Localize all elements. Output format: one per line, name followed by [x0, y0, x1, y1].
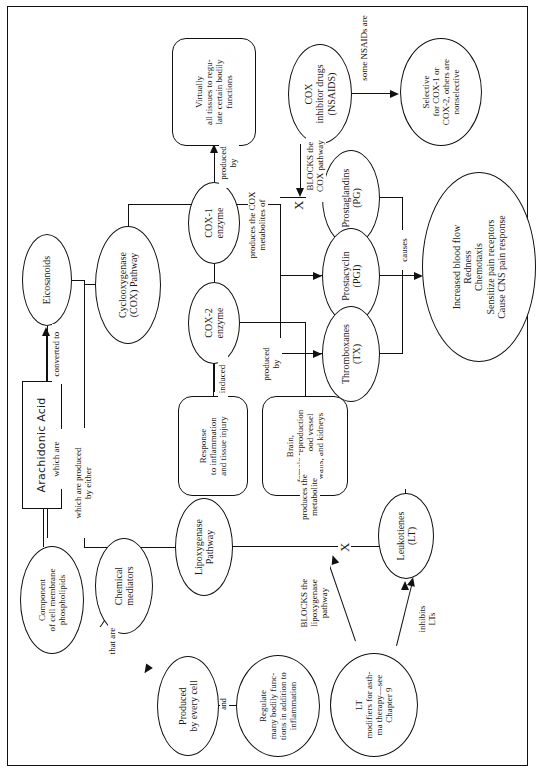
arrowhead-blocks-cox	[296, 188, 304, 197]
edge-label-causes: causes	[400, 230, 410, 270]
edge-component-to-arachidonic	[43, 507, 44, 547]
node-cox1-enzyme[interactable]: COX-1enzyme	[188, 182, 240, 264]
node-thromboxanes[interactable]: Thromboxanes(TX)	[322, 306, 380, 402]
node-label: Prostacyclin(PGI)	[340, 248, 362, 303]
edge-cox2-to-brain-horizontal	[305, 322, 306, 396]
edge-prostaglandins-down	[380, 197, 402, 198]
edge-label-inhibits-lts: inhibitsLTs	[418, 588, 438, 650]
edge-cox2-to-brain-vertical	[240, 322, 305, 323]
edge-metabolites-bar	[280, 204, 281, 354]
node-label: Prostaglandins(PG)	[340, 166, 362, 231]
edge-label-and: and	[220, 686, 229, 722]
node-label: LTmodifiers for asth-ma therapy—seeChapt…	[354, 669, 394, 742]
block-marker-lipoxygenase: X	[338, 543, 351, 552]
node-virtually-all-tissues[interactable]: Virtuallyall tissues to regu-late certai…	[172, 38, 256, 146]
node-label: Leukotienes(LT)	[395, 509, 417, 564]
node-leukotrienes[interactable]: Leukotienes(LT)	[378, 493, 434, 579]
node-selective-nsaids[interactable]: Selectivefor COX-1 orCOX-2, others areno…	[400, 38, 482, 146]
node-label: Increased blood flowRednessChemotaxisSen…	[451, 212, 507, 322]
node-regulate-bodily-functions[interactable]: Regulatemany bodily func-tions in additi…	[236, 655, 320, 757]
node-label: Virtuallyall tissues to regu-late certai…	[194, 56, 234, 128]
node-label: Arachidonic Acid	[36, 395, 48, 496]
node-label: Componentof cell membranephospholipids	[37, 566, 67, 635]
figure-page: Componentof cell membranephospholipids A…	[0, 0, 536, 774]
node-lipoxygenase-pathway[interactable]: LipoxygenasePathway	[175, 498, 233, 596]
node-label: Eicosanoids	[41, 253, 52, 307]
edge-label-blocks-lipoxygenase: BLOCKS thelipoxygenasepathway	[300, 560, 330, 646]
concept-map-canvas: Componentof cell membranephospholipids A…	[0, 0, 536, 774]
block-marker-cox: X	[292, 201, 305, 210]
edge-prostacyclin-down	[380, 275, 402, 276]
arrowhead-blocks-lipoxygenase	[329, 554, 339, 565]
node-label: Thromboxanes(TX)	[340, 321, 362, 387]
node-lt-modifiers[interactable]: LTmodifiers for asth-ma therapy—seeChapt…	[330, 653, 418, 757]
node-label: Regulatemany bodily func-tions in additi…	[258, 669, 298, 743]
node-label: Selectivefor COX-1 orCOX-2, others areno…	[421, 56, 461, 128]
node-response-inflammation[interactable]: Responseto inflammationand tissue injury	[178, 396, 248, 496]
edge-label-some-nsaids-are: some NSAIDs are	[360, 8, 370, 88]
node-label: Chemicalmediators	[113, 563, 135, 608]
node-cox2-enzyme[interactable]: COX-2enzyme	[188, 282, 240, 364]
node-label: Cyclooxygenase(COX) Pathway	[117, 249, 139, 321]
edge-ltmod-blocks-lipoxygenase	[328, 563, 356, 641]
edge-ltmod-inhibits-lts	[396, 582, 413, 646]
node-label: Producedby every cell	[177, 677, 199, 735]
node-chemical-mediators[interactable]: Chemicalmediators	[95, 538, 153, 634]
edge-label-blocks-cox: BLOCKS theCOX pathway	[306, 130, 326, 202]
edge-nsaids-to-selective	[352, 93, 392, 94]
node-label: LipoxygenasePathway	[193, 516, 215, 578]
edge-label-produces-cox-metabolites: produces the COXmetabolites of	[248, 166, 268, 284]
edge-label-induced: induced	[218, 356, 228, 402]
node-component-phospholipids[interactable]: Componentof cell membranephospholipids	[20, 546, 84, 654]
edge-cox-stem	[128, 204, 129, 226]
node-label: COX-1enzyme	[203, 204, 225, 241]
arrowhead-to-selective	[390, 90, 399, 98]
node-cox-inhibitor-drugs[interactable]: COXinhibitor drugs(NSAIDS)	[288, 44, 352, 144]
edge-nsaids-blocks-cox	[300, 144, 301, 190]
edge-label-converted-to: converted to	[52, 324, 62, 384]
node-label: COXinhibitor drugs(NSAIDS)	[303, 61, 337, 126]
node-label: Responseto inflammationand tissue injury	[198, 413, 228, 479]
spacer13	[214, 362, 215, 392]
arrowhead-to-produced	[141, 664, 153, 676]
edge-label-that-are: that are	[108, 616, 118, 666]
arrowhead-to-thromboxanes	[313, 350, 322, 358]
edge-label-produced-by-either: which are producedby either	[74, 428, 94, 538]
node-produced-by-every-cell[interactable]: Producedby every cell	[157, 656, 219, 756]
edge-label-produced-by-cox2: producedby	[262, 338, 282, 390]
edge-label-which-are: which are	[52, 429, 62, 489]
node-inflammatory-effects[interactable]: Increased blood flowRednessChemotaxisSen…	[422, 172, 536, 362]
edge-label-produced-by-cox1: producedby	[219, 138, 239, 188]
node-cox-pathway[interactable]: Cyclooxygenase(COX) Pathway	[95, 226, 161, 344]
edge-label-produces-metabolite: produces themetabolite	[300, 452, 320, 542]
edge-thromboxanes-down	[380, 353, 402, 354]
arrowhead-to-eicosanoids	[42, 327, 50, 336]
edge-cox1-to-virtually	[214, 152, 215, 182]
node-eicosanoids[interactable]: Eicosanoids	[22, 234, 72, 326]
edge-eicosanoids-branch-stem	[72, 280, 84, 281]
node-label: COX-2enzyme	[203, 304, 225, 341]
arrowhead-to-prostacyclin	[313, 272, 322, 280]
